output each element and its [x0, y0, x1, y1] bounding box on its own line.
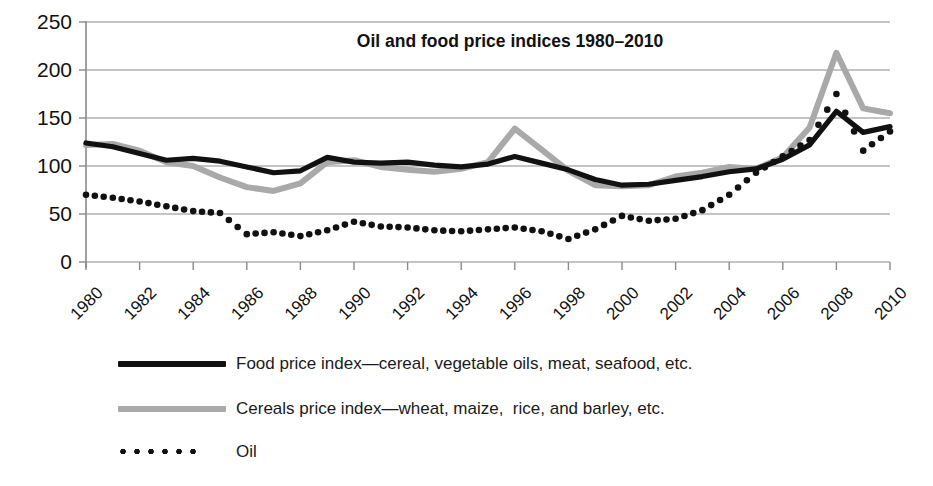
- x-tick-label: 1982: [120, 283, 160, 323]
- data-point: [485, 226, 492, 233]
- data-point: [610, 217, 617, 224]
- x-axis-tick-labels: 1980198219841986198819901992199419961998…: [67, 283, 911, 323]
- data-point: [520, 225, 527, 232]
- data-point: [100, 193, 107, 200]
- data-point: [806, 137, 813, 144]
- x-tick-label: 1996: [495, 283, 535, 323]
- data-point: [762, 164, 769, 171]
- data-point: [851, 128, 858, 135]
- data-point: [592, 226, 599, 233]
- data-point: [172, 205, 179, 212]
- y-tick-label: 50: [49, 202, 72, 225]
- data-point: [753, 169, 760, 176]
- data-point: [887, 128, 894, 135]
- data-point: [681, 213, 688, 220]
- data-point: [833, 91, 840, 98]
- data-point: [726, 192, 733, 199]
- data-point: [217, 210, 224, 217]
- data-point: [708, 202, 715, 209]
- y-tick-label: 200: [37, 58, 72, 81]
- data-point: [226, 217, 233, 224]
- data-point: [547, 231, 554, 238]
- legend-label-food-price-index: Food price index—cereal, vegetable oils,…: [236, 355, 692, 372]
- x-tick-label: 1986: [227, 283, 267, 323]
- data-point: [413, 225, 420, 232]
- data-point: [744, 177, 751, 184]
- data-point: [538, 228, 545, 235]
- data-point: [502, 225, 509, 232]
- data-point: [422, 226, 429, 233]
- data-point: [118, 196, 125, 203]
- data-point: [145, 200, 152, 207]
- x-tick-label: 2010: [871, 283, 911, 323]
- data-point: [360, 220, 367, 227]
- x-tick-label: 2000: [603, 283, 643, 323]
- data-point: [815, 122, 822, 129]
- data-point: [83, 192, 90, 199]
- data-point: [601, 222, 608, 229]
- data-point: [297, 233, 304, 240]
- data-point: [842, 109, 849, 116]
- data-point: [780, 153, 787, 160]
- data-point: [279, 230, 286, 237]
- data-point: [476, 227, 483, 234]
- chart-title: Oil and food price indices 1980–2010: [357, 31, 664, 51]
- data-point: [288, 231, 295, 238]
- data-point: [181, 206, 188, 213]
- data-point: [654, 217, 661, 224]
- data-point: [735, 184, 742, 191]
- data-point: [636, 216, 643, 223]
- y-tick-label: 150: [37, 106, 72, 129]
- data-point: [110, 194, 117, 201]
- data-point: [386, 223, 393, 230]
- x-tick-label: 2004: [710, 283, 750, 323]
- data-point: [199, 208, 206, 215]
- data-point: [869, 141, 876, 148]
- data-point: [208, 209, 215, 216]
- y-tick-label: 250: [37, 10, 72, 33]
- data-point: [449, 228, 456, 235]
- x-tick-label: 1988: [281, 283, 321, 323]
- data-point: [190, 208, 197, 215]
- x-axis-ticks: [86, 262, 890, 270]
- data-point: [261, 230, 268, 237]
- chart-figure: 050100150200250 198019821984198619881990…: [0, 0, 933, 486]
- x-tick-label: 2008: [817, 283, 857, 323]
- data-point: [458, 228, 465, 235]
- data-point: [244, 231, 251, 238]
- data-point: [431, 227, 438, 234]
- dotted-line-swatch: [118, 448, 226, 455]
- x-tick-label: 1980: [67, 283, 107, 323]
- data-point: [583, 229, 590, 236]
- data-point: [342, 221, 349, 228]
- series-cereals-price-index: [86, 53, 890, 191]
- data-point: [494, 225, 501, 232]
- x-tick-label: 1992: [388, 283, 428, 323]
- data-point: [252, 230, 259, 237]
- data-point: [395, 224, 402, 231]
- solid-gray-line-swatch: [118, 406, 226, 412]
- x-tick-label: 1984: [174, 283, 214, 323]
- data-point: [136, 198, 143, 205]
- gridlines: [86, 22, 890, 262]
- data-point: [324, 227, 331, 234]
- data-point: [378, 223, 385, 230]
- data-point: [628, 214, 635, 221]
- data-point: [351, 218, 358, 225]
- data-point: [163, 203, 170, 210]
- data-point: [440, 227, 447, 234]
- data-point: [788, 148, 795, 155]
- legend-item-food-price-index: Food price index—cereal, vegetable oils,…: [118, 355, 692, 372]
- data-point: [878, 135, 885, 142]
- data-point: [663, 216, 670, 223]
- data-point: [270, 229, 277, 236]
- data-point: [467, 227, 474, 234]
- x-tick-label: 2002: [656, 283, 696, 323]
- data-point: [574, 232, 581, 239]
- data-point: [529, 227, 536, 234]
- y-tick-label: 0: [60, 250, 72, 273]
- legend-label-cereals-price-index: Cereals price index—wheat, maize, rice, …: [236, 400, 665, 417]
- data-point: [797, 142, 804, 149]
- data-point: [770, 159, 777, 166]
- data-point: [699, 207, 706, 214]
